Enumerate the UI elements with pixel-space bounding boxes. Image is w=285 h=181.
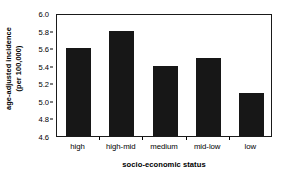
bars-container <box>57 15 271 136</box>
y-axis-tick-label: 5.6 <box>39 45 49 54</box>
bar <box>66 48 91 136</box>
bar <box>153 66 178 136</box>
y-axis-tick-mark <box>50 119 53 120</box>
y-axis-title-text: age-adjusted incidence (per 100,000) <box>4 27 23 110</box>
x-axis-category-label: high-mid <box>106 142 136 151</box>
y-axis-tick-mark <box>50 66 53 67</box>
y-axis-tick-mark <box>50 31 53 32</box>
y-axis-tick-label: 4.8 <box>39 115 49 124</box>
x-axis-category-label: low <box>245 142 257 151</box>
y-axis-tick-label: 5.2 <box>39 80 49 89</box>
x-axis-tick-mark <box>142 137 143 140</box>
x-axis-category-label: medium <box>150 142 177 151</box>
y-axis-tick-mark <box>50 101 53 102</box>
x-axis-category-label: high <box>70 142 85 151</box>
plot-area <box>56 14 272 137</box>
y-axis-tick-label: 5.4 <box>39 62 49 71</box>
x-axis-category-label: mid-low <box>194 142 221 151</box>
x-axis-tick-mark <box>99 137 100 140</box>
bar <box>196 58 221 136</box>
bar <box>109 31 134 136</box>
chart-figure: age-adjusted incidence (per 100,000) 6.0… <box>0 0 285 181</box>
y-axis-tick-mark <box>50 49 53 50</box>
y-axis-tick-label: 5.0 <box>39 97 49 106</box>
x-axis-category-labels: highhigh-midmediummid-lowlow <box>56 142 272 155</box>
y-axis-tick-label: 6.0 <box>39 10 49 19</box>
x-axis-title: socio-economic status <box>56 160 272 169</box>
y-axis-tick-label: 4.6 <box>39 133 49 142</box>
y-axis-title-line1: age-adjusted incidence <box>4 27 13 110</box>
x-axis-tick-mark <box>186 137 187 140</box>
y-axis-tick-label: 5.8 <box>39 27 49 36</box>
x-axis-tick-mark <box>229 137 230 140</box>
y-axis-ticks: 6.05.85.65.45.25.04.84.6 <box>26 14 53 137</box>
y-axis-title: age-adjusted incidence (per 100,000) <box>0 0 26 137</box>
bar <box>239 93 264 136</box>
y-axis-tick-mark <box>50 84 53 85</box>
y-axis-title-line2: (per 100,000) <box>13 27 23 110</box>
